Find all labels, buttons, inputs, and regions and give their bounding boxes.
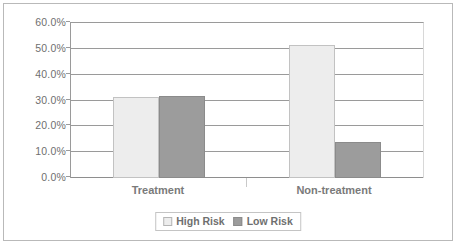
legend-label: High Risk: [176, 215, 224, 227]
chart-legend: High RiskLow Risk: [155, 212, 301, 231]
x-axis-category-label: Non-treatment: [246, 184, 422, 196]
bar-high-risk-non-treatment: [289, 45, 335, 178]
category-separator-tick: [246, 178, 247, 187]
legend-label: Low Risk: [247, 215, 293, 227]
bar-low-risk-treatment: [159, 96, 205, 178]
y-axis-tick-label: 10.0%: [8, 145, 66, 157]
y-axis-tick-label: 60.0%: [8, 16, 66, 28]
y-axis-tick-label: 20.0%: [8, 119, 66, 131]
x-axis: TreatmentNon-treatment: [70, 178, 424, 204]
legend-item-low-risk: Low Risk: [234, 215, 293, 227]
gridline: [71, 48, 423, 49]
legend-item-high-risk: High Risk: [163, 215, 224, 227]
legend-swatch-icon: [163, 217, 172, 226]
y-axis-labels: 60.0%50.0%40.0%30.0%20.0%10.0%0.0%: [4, 22, 66, 178]
y-axis-tick-label: 0.0%: [8, 171, 66, 183]
chart-frame: 60.0%50.0%40.0%30.0%20.0%10.0%0.0% Treat…: [3, 3, 453, 241]
plot-area: [70, 22, 424, 178]
x-axis-category-label: Treatment: [70, 184, 246, 196]
legend-swatch-icon: [234, 217, 243, 226]
y-axis-tick-label: 30.0%: [8, 94, 66, 106]
gridline: [71, 74, 423, 75]
bar-low-risk-non-treatment: [335, 142, 381, 178]
gridline: [71, 22, 423, 23]
y-axis-tick-label: 50.0%: [8, 42, 66, 54]
y-axis-tick-label: 40.0%: [8, 68, 66, 80]
bar-high-risk-treatment: [113, 97, 159, 178]
